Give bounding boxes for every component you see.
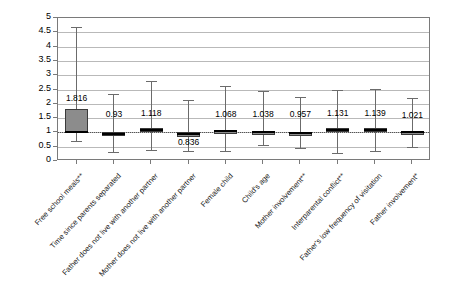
y-tick-label: 3.5 bbox=[38, 55, 51, 64]
y-tick-label: 1 bbox=[46, 126, 51, 135]
box-value-label: 1.021 bbox=[402, 111, 423, 120]
whisker-cap-lower bbox=[108, 152, 119, 153]
whisker-line bbox=[113, 94, 114, 151]
whisker-cap-upper bbox=[146, 81, 157, 82]
y-tick-label: 4 bbox=[46, 41, 51, 50]
median-line bbox=[65, 131, 88, 133]
x-tick-label: Child's age bbox=[241, 172, 272, 205]
x-tick-mark bbox=[76, 160, 77, 164]
x-axis: Free school meals**Time since parents se… bbox=[57, 160, 430, 307]
boxplot-item: 1.068 bbox=[207, 18, 244, 161]
median-line bbox=[177, 133, 200, 135]
y-tick-label: 0.5 bbox=[38, 141, 51, 150]
whisker-cap-lower bbox=[183, 151, 194, 152]
x-tick-mark bbox=[150, 160, 151, 164]
x-tick-mark bbox=[299, 160, 300, 164]
box-value-label: 1.068 bbox=[215, 110, 236, 119]
y-tick-label: 5 bbox=[46, 12, 51, 21]
y-tick-label: 1.5 bbox=[38, 112, 51, 121]
boxplot-item: 1.038 bbox=[245, 18, 282, 161]
x-tick-label: Time since parents separated bbox=[49, 172, 123, 250]
x-tick-mark bbox=[262, 160, 263, 164]
x-tick-mark bbox=[374, 160, 375, 164]
box-value-label: 1.139 bbox=[364, 109, 385, 118]
box-value-label: 0.957 bbox=[290, 110, 311, 119]
x-tick-mark bbox=[411, 160, 412, 164]
median-line bbox=[401, 131, 424, 133]
boxplot-item: 1.816 bbox=[58, 18, 95, 161]
boxplot-item: 1.139 bbox=[356, 18, 393, 161]
whisker-cap-lower bbox=[295, 148, 306, 149]
whisker-line bbox=[412, 98, 413, 148]
y-tick-label: 2.5 bbox=[38, 84, 51, 93]
y-tick-label: 2 bbox=[46, 98, 51, 107]
x-tick-mark bbox=[337, 160, 338, 164]
whisker-cap-lower bbox=[146, 150, 157, 151]
whisker-line bbox=[375, 89, 376, 151]
median-line bbox=[289, 132, 312, 134]
y-axis: 54.543.532.521.510.50 bbox=[0, 0, 57, 177]
boxplot-chart: 54.543.532.521.510.50 1.8160.931.1180.83… bbox=[0, 0, 451, 307]
boxplot-item: 0.836 bbox=[170, 18, 207, 161]
plot-area: 1.8160.931.1180.8361.0681.0380.9571.1311… bbox=[57, 17, 430, 160]
whisker-cap-upper bbox=[407, 98, 418, 99]
boxplot-item: 1.131 bbox=[319, 18, 356, 161]
box-value-label: 0.836 bbox=[178, 138, 199, 147]
box-value-label: 1.131 bbox=[327, 109, 348, 118]
boxplot-item: 0.93 bbox=[95, 18, 132, 161]
box-rect bbox=[65, 109, 88, 132]
whisker-cap-upper bbox=[108, 94, 119, 95]
y-tick-label: 4.5 bbox=[38, 26, 51, 35]
box-value-label: 1.816 bbox=[66, 94, 87, 103]
whisker-cap-lower bbox=[332, 153, 343, 154]
whisker-cap-lower bbox=[258, 145, 269, 146]
whisker-cap-lower bbox=[407, 147, 418, 148]
whisker-cap-lower bbox=[220, 151, 231, 152]
boxplot-item: 1.118 bbox=[133, 18, 170, 161]
whisker-cap-lower bbox=[71, 141, 82, 142]
x-tick-mark bbox=[113, 160, 114, 164]
whisker-cap-lower bbox=[370, 151, 381, 152]
whisker-cap-upper bbox=[220, 86, 231, 87]
x-tick-mark bbox=[188, 160, 189, 164]
median-line bbox=[140, 129, 163, 131]
whisker-cap-upper bbox=[71, 27, 82, 28]
median-line bbox=[252, 131, 275, 133]
whisker-cap-upper bbox=[332, 90, 343, 91]
x-tick-label: Female child bbox=[199, 172, 234, 209]
median-line bbox=[102, 133, 125, 135]
y-tick-label: 0 bbox=[46, 155, 51, 164]
median-line bbox=[214, 130, 237, 132]
whisker-cap-upper bbox=[295, 97, 306, 98]
median-line bbox=[364, 129, 387, 131]
box-value-label: 1.118 bbox=[141, 109, 162, 118]
median-line bbox=[326, 129, 349, 131]
boxplot-item: 1.021 bbox=[394, 18, 431, 161]
x-tick-mark bbox=[225, 160, 226, 164]
whisker-cap-upper bbox=[258, 91, 269, 92]
box-value-label: 0.93 bbox=[106, 110, 123, 119]
whisker-cap-upper bbox=[370, 89, 381, 90]
whisker-cap-upper bbox=[183, 100, 194, 101]
box-value-label: 1.038 bbox=[253, 110, 274, 119]
y-tick-label: 3 bbox=[46, 69, 51, 78]
whisker-line bbox=[300, 97, 301, 148]
boxplot-item: 0.957 bbox=[282, 18, 319, 161]
whisker-line bbox=[337, 90, 338, 152]
